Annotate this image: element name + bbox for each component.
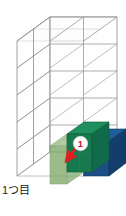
step-marker-badge: 1: [73, 136, 87, 150]
figure-caption: 1つ目: [2, 184, 30, 197]
step-marker-label: 1: [78, 138, 84, 149]
figure-stage: 1 1つ目: [0, 0, 126, 216]
cube-teal-green-center[interactable]: [67, 122, 109, 172]
